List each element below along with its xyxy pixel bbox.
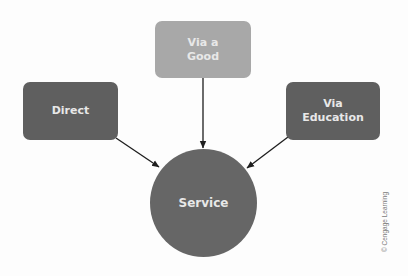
copyright-credit: © Cengage Learning <box>381 192 388 252</box>
node-direct: Direct <box>23 82 118 140</box>
node-via-a-good-label: Via a Good <box>187 36 219 64</box>
node-via-education: Via Education <box>286 82 380 140</box>
node-service: Service <box>150 149 257 257</box>
node-service-label: Service <box>179 196 229 210</box>
node-direct-label: Direct <box>52 104 90 118</box>
arrow-education-to-service <box>247 137 288 168</box>
node-via-education-label: Via Education <box>302 97 364 125</box>
diagram-canvas: Via a Good Direct Via Education Service … <box>0 0 408 276</box>
arrow-direct-to-service <box>116 138 159 167</box>
node-via-a-good: Via a Good <box>155 21 251 78</box>
